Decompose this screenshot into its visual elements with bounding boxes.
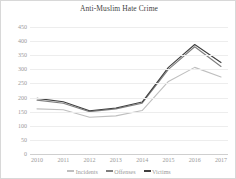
y-axis-tick-labels: 050100150200250300350400450 <box>1 27 27 154</box>
legend-label: Victims <box>152 169 171 175</box>
plot-area <box>30 27 228 154</box>
gridline-300 <box>30 69 228 70</box>
gridline-0 <box>30 154 228 155</box>
y-tick-label: 300 <box>3 66 27 72</box>
y-tick-label: 150 <box>3 109 27 115</box>
gridline-150 <box>30 112 228 113</box>
x-axis-tick-labels: 20102011201220132014201520162017 <box>30 157 228 167</box>
legend-item-victims[interactable]: Victims <box>144 168 171 175</box>
y-tick-label: 200 <box>3 95 27 101</box>
legend-item-incidents[interactable]: Incidents <box>67 168 98 175</box>
chart-title: Anti-Muslim Hate Crime <box>1 4 236 13</box>
y-tick-label: 350 <box>3 52 27 58</box>
y-tick-label: 50 <box>3 137 27 143</box>
gridline-400 <box>30 41 228 42</box>
series-lines <box>30 27 228 154</box>
gridline-250 <box>30 83 228 84</box>
gridline-450 <box>30 27 228 28</box>
chart-legend: IncidentsOffensesVictims <box>1 168 236 175</box>
legend-label: Offenses <box>114 169 135 175</box>
chart-figure: Anti-Muslim Hate Crime 05010015020025030… <box>0 0 236 179</box>
y-tick-label: 450 <box>3 24 27 30</box>
series-line-incidents <box>37 67 221 117</box>
x-tick-label: 2017 <box>206 157 236 164</box>
y-tick-label: 400 <box>3 38 27 44</box>
gridline-200 <box>30 98 228 99</box>
gridline-350 <box>30 55 228 56</box>
legend-item-offenses[interactable]: Offenses <box>106 168 136 175</box>
legend-label: Incidents <box>76 169 98 175</box>
legend-swatch-icon <box>67 170 74 171</box>
gridline-100 <box>30 126 228 127</box>
y-tick-label: 100 <box>3 123 27 129</box>
legend-swatch-icon <box>144 170 151 171</box>
gridline-50 <box>30 140 228 141</box>
y-tick-label: 250 <box>3 80 27 86</box>
legend-swatch-icon <box>106 170 113 171</box>
